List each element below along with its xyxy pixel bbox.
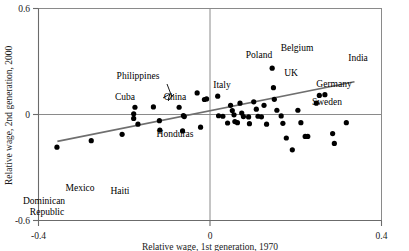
data-point — [151, 104, 156, 109]
data-point — [259, 114, 264, 119]
y-tick-label-bottom: -0.6 — [15, 216, 30, 226]
x-tick-label-left: -0.4 — [31, 231, 46, 241]
data-point — [228, 103, 233, 108]
data-point — [89, 138, 94, 143]
data-point — [271, 85, 276, 90]
data-point — [231, 112, 236, 117]
data-point — [274, 108, 279, 113]
point-label: Honduras — [157, 129, 194, 139]
data-point — [254, 107, 259, 112]
data-point — [270, 66, 275, 71]
x-tick-label-mid: 0 — [208, 231, 213, 241]
data-point — [215, 94, 220, 99]
data-point — [251, 99, 256, 104]
data-point — [131, 111, 136, 116]
point-label: China — [164, 92, 187, 102]
data-point — [195, 90, 200, 95]
point-label: Belgium — [281, 43, 314, 53]
point-label: UK — [284, 68, 298, 78]
plot-area: 0.6 0 -0.6 -0.4 0 0.4 Relative wage, 2nd… — [0, 0, 409, 251]
point-label: Republic — [30, 207, 64, 217]
data-point — [198, 125, 203, 130]
data-point — [344, 120, 349, 125]
point-label: Haiti — [111, 186, 130, 196]
data-points-layer — [54, 66, 349, 153]
data-point — [241, 114, 246, 119]
point-label: Dominican — [23, 196, 65, 206]
data-point — [247, 121, 252, 126]
point-label: Poland — [246, 50, 273, 60]
data-point — [305, 134, 310, 139]
x-tick-label-right: 0.4 — [376, 231, 388, 241]
data-point — [202, 97, 207, 102]
data-point — [225, 120, 230, 125]
point-label: Sweden — [312, 97, 342, 107]
data-point — [290, 147, 295, 152]
scatter-chart: 0.6 0 -0.6 -0.4 0 0.4 Relative wage, 2nd… — [0, 0, 409, 251]
data-point — [330, 131, 335, 136]
data-point — [261, 103, 266, 108]
data-point — [237, 101, 242, 106]
point-label: India — [348, 53, 368, 63]
x-axis-title: Relative wage, 1st generation, 1970 — [142, 242, 278, 251]
data-point — [182, 114, 187, 119]
y-tick-label-top: 0.6 — [18, 4, 30, 14]
data-point — [157, 118, 162, 123]
data-point — [279, 113, 284, 118]
data-point — [132, 105, 137, 110]
y-tick-label-mid: 0 — [25, 110, 30, 120]
data-point — [235, 120, 240, 125]
data-point — [131, 116, 136, 121]
data-point — [54, 145, 59, 150]
data-point — [298, 120, 303, 125]
data-point — [272, 97, 277, 102]
data-point — [284, 135, 289, 140]
data-point — [246, 114, 251, 119]
data-point — [177, 105, 182, 110]
data-point — [220, 114, 225, 119]
point-label: Mexico — [65, 183, 94, 193]
point-label: Germany — [316, 79, 352, 89]
data-point — [332, 141, 337, 146]
data-point — [120, 132, 125, 137]
point-label: Italy — [213, 80, 231, 90]
data-point — [264, 122, 269, 127]
point-labels-layer: DominicanRepublicMexicoHaitiCubaPhilippi… — [23, 43, 369, 217]
trend-line — [57, 82, 354, 142]
data-point — [135, 122, 140, 127]
data-point — [280, 121, 285, 126]
data-point — [295, 108, 300, 113]
y-axis-title: Relative wage, 2nd generation, 2000 — [4, 45, 14, 185]
point-label: Cuba — [115, 92, 136, 102]
point-label: Philippines — [117, 71, 160, 81]
